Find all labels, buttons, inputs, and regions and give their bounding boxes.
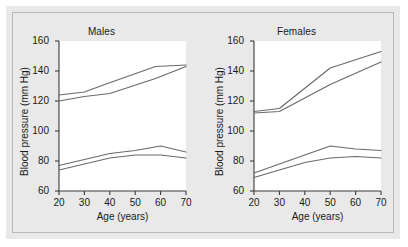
y-tick-label: 140	[218, 65, 244, 76]
y-tick-label: 160	[218, 35, 244, 46]
x-tick-label: 30	[74, 197, 94, 208]
x-tick-label: 70	[371, 197, 391, 208]
data-series-line	[59, 65, 186, 95]
y-tick-label: 80	[218, 155, 244, 166]
y-tick-label: 100	[218, 125, 244, 136]
y-tick-label: 160	[23, 35, 49, 46]
x-tick-label: 20	[49, 197, 69, 208]
x-tick-label: 50	[320, 197, 340, 208]
x-tick-label: 30	[269, 197, 289, 208]
y-tick-label: 100	[23, 125, 49, 136]
data-series-line	[59, 67, 186, 102]
data-series-line	[59, 155, 186, 170]
y-tick-label: 60	[23, 185, 49, 196]
y-tick-label: 140	[23, 65, 49, 76]
x-tick-label: 60	[346, 197, 366, 208]
axis-spine	[59, 41, 186, 191]
x-tick-label: 70	[176, 197, 196, 208]
x-tick-label: 50	[125, 197, 145, 208]
data-series-line	[254, 157, 381, 178]
x-tick-label: 40	[295, 197, 315, 208]
data-series-line	[254, 62, 381, 113]
x-tick-label: 40	[100, 197, 120, 208]
y-tick-label: 120	[218, 95, 244, 106]
data-series-line	[254, 52, 381, 112]
panel-females: Females Blood pressure (mm Hg) Age (year…	[201, 12, 392, 233]
y-tick-label: 120	[23, 95, 49, 106]
x-tick-label: 60	[151, 197, 171, 208]
x-tick-label: 20	[244, 197, 264, 208]
axis-spine	[254, 41, 381, 191]
figure-canvas: Males Blood pressure (mm Hg) Age (years)…	[0, 0, 408, 247]
panel-males: Males Blood pressure (mm Hg) Age (years)…	[6, 12, 197, 233]
y-tick-label: 60	[218, 185, 244, 196]
y-tick-label: 80	[23, 155, 49, 166]
data-series-line	[254, 146, 381, 173]
